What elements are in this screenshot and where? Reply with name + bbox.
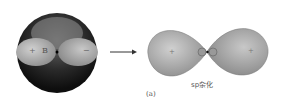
left-lobe-sign: +: [169, 48, 175, 56]
minus-sign-label: −: [83, 46, 90, 55]
panel-label: (a): [146, 90, 156, 98]
arrow-icon: [110, 50, 137, 55]
plus-sign-label: +: [29, 46, 36, 55]
atom-label: B: [42, 46, 48, 55]
sp-hybridization-caption: sp杂化: [191, 79, 213, 89]
right-lobe-sign: +: [248, 47, 254, 55]
